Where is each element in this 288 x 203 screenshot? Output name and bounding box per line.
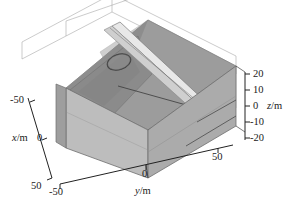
- x-axis-title-unit: m: [20, 132, 28, 143]
- block-left-side-face: [56, 84, 66, 148]
- z-axis-title: z/m: [267, 100, 282, 111]
- z-tick-minus-10: -10: [250, 116, 264, 127]
- z-axis-title-unit: m: [274, 100, 282, 111]
- z-axis: [236, 66, 250, 140]
- y-axis-title: y/m: [135, 185, 151, 196]
- x-tick-0: 0: [37, 132, 42, 143]
- y-tick-0: 0: [142, 168, 147, 179]
- z-tick-0: 0: [253, 100, 258, 111]
- y-tick-minus-50: -50: [49, 186, 63, 197]
- x-tick-minus-50: -50: [10, 94, 24, 105]
- y-tick-50: 50: [212, 151, 223, 162]
- x-axis-title: x/m: [12, 132, 28, 143]
- z-tick-10: 10: [253, 84, 264, 95]
- z-tick-20: 20: [253, 68, 264, 79]
- z-tick-minus-20: -20: [250, 132, 264, 143]
- figure-3d-block-diagram: 20 10 0 -10 -20 z/m -50 0 50 y/m -50 0 5…: [0, 0, 288, 203]
- x-tick-50: 50: [31, 180, 42, 191]
- y-axis-title-unit: m: [143, 185, 151, 196]
